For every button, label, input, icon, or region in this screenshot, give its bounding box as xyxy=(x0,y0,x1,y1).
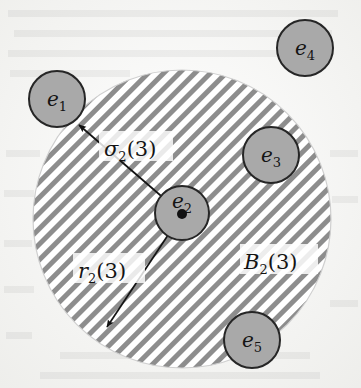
node-e5[interactable]: e5 xyxy=(224,312,280,368)
label-sigma-main: σ xyxy=(104,137,119,161)
label-sigma-2-3: σ2(3) xyxy=(99,131,173,164)
node-e4[interactable]: e4 xyxy=(277,20,333,76)
label-radius-sub: 2 xyxy=(88,271,96,286)
label-ball-sub: 2 xyxy=(259,262,267,277)
node-e4-label-main: e xyxy=(295,36,307,60)
label-sigma-arg: (3) xyxy=(127,137,157,161)
label-radius-text: r2(3) xyxy=(78,259,126,286)
node-e4-label-sub: 4 xyxy=(307,48,315,63)
node-e5-label-sub: 5 xyxy=(254,340,262,355)
node-e3-label-sub: 3 xyxy=(273,155,281,170)
node-e5-label-main: e xyxy=(242,328,254,352)
label-sigma-sub: 2 xyxy=(118,149,126,164)
label-sigma-text: σ2(3) xyxy=(104,137,156,164)
node-e2[interactable]: e2 xyxy=(155,186,209,240)
label-ball-arg: (3) xyxy=(268,250,298,274)
label-ball-b2-3: B2(3) xyxy=(240,244,318,277)
label-radius-arg: (3) xyxy=(96,259,126,283)
node-e1-label-sub: 1 xyxy=(59,99,67,114)
node-e3[interactable]: e3 xyxy=(243,127,299,183)
node-e3-label-main: e xyxy=(261,143,273,167)
label-ball-main: B xyxy=(243,250,259,274)
label-ball-text: B2(3) xyxy=(243,250,297,277)
node-e1[interactable]: e1 xyxy=(29,71,85,127)
figure-svg: σ2(3) r2(3) B2(3) e1 e2 xyxy=(0,0,361,388)
figure-container: σ2(3) r2(3) B2(3) e1 e2 xyxy=(0,0,361,388)
ball-center-dot xyxy=(177,209,187,219)
label-radius-r2-3: r2(3) xyxy=(73,253,145,286)
node-e1-label-main: e xyxy=(47,87,59,111)
